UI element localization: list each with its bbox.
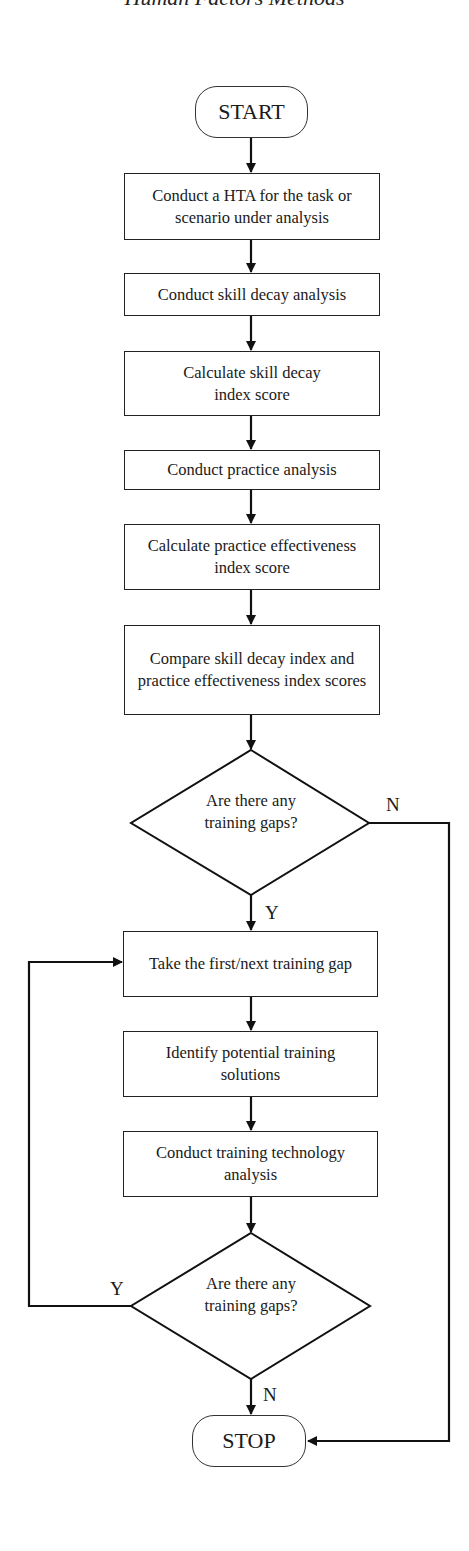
step-skill-decay-analysis: Conduct skill decay analysis: [124, 273, 380, 316]
step-conduct-hta: Conduct a HTA for the task or scenario u…: [124, 173, 380, 240]
step-compare-scores: Compare skill decay index and practice e…: [124, 625, 380, 715]
decision-1-question: Are there any training gaps?: [196, 790, 306, 834]
step-practice-analysis: Conduct practice analysis: [124, 450, 380, 490]
decision-2-no-label: N: [263, 1384, 277, 1406]
decision-1-yes-label: Y: [265, 902, 279, 924]
decision-2-question: Are there any training gaps?: [196, 1273, 306, 1317]
step-training-technology-analysis: Conduct training technology analysis: [123, 1131, 378, 1197]
decision-1-no-label: N: [386, 794, 400, 816]
step-practice-effectiveness-index: Calculate practice effectiveness index s…: [124, 524, 380, 590]
stop-terminal: STOP: [192, 1415, 306, 1467]
step-identify-solutions: Identify potential training solutions: [123, 1031, 378, 1097]
decision-2-yes-label: Y: [110, 1278, 124, 1300]
step-skill-decay-index: Calculate skill decay index score: [124, 351, 380, 416]
start-terminal: START: [195, 86, 308, 138]
step-take-training-gap: Take the first/next training gap: [123, 931, 378, 997]
